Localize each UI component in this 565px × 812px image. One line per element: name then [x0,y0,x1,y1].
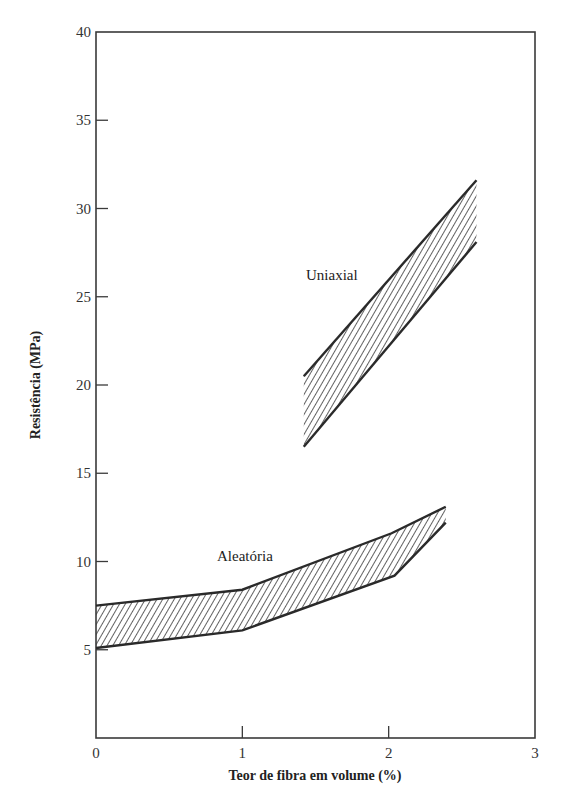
y-axis-label: Resistência (MPa) [28,330,44,439]
x-tick-label: 1 [239,745,247,761]
uniaxial-label: Uniaxial [306,267,358,283]
y-tick-label: 25 [76,289,91,305]
y-tick-label: 5 [84,642,92,658]
y-tick-label: 10 [76,554,91,570]
x-axis-label: Teor de fibra em volume (%) [228,768,401,784]
uniaxial-band-fill [304,180,477,447]
y-tick-label: 20 [76,377,91,393]
x-tick-label: 3 [531,745,539,761]
y-axis-ticks: 510152025303540 [76,24,108,658]
strength-vs-fiber-chart: 510152025303540 0123 Uniaxial Aleatória … [0,0,565,812]
y-tick-label: 40 [76,24,91,40]
x-tick-label: 2 [385,745,393,761]
data-bands [96,180,476,648]
y-tick-label: 30 [76,201,91,217]
y-tick-label: 15 [76,465,91,481]
x-tick-label: 0 [92,745,100,761]
aleatria-band-fill [96,507,446,648]
x-axis-ticks: 0123 [92,726,539,761]
y-tick-label: 35 [76,112,91,128]
aleatoria-label: Aleatória [217,548,273,564]
